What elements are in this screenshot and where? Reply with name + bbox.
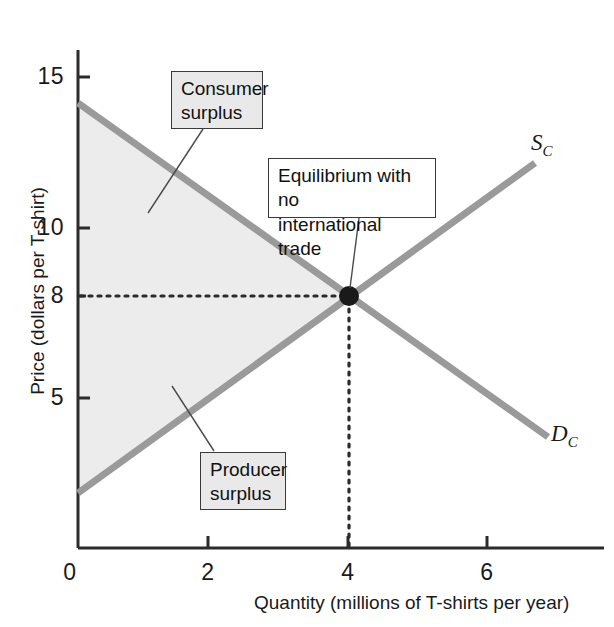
x-tick-label-2: 2 [183, 559, 233, 586]
demand-curve-label-main: D [551, 421, 568, 446]
x-tick-label-6: 6 [462, 559, 512, 586]
x-tick-label-0: 0 [45, 559, 95, 586]
demand-curve-label: DC [551, 421, 578, 451]
demand-curve-label-sub: C [568, 434, 578, 450]
supply-demand-chart: 15 10 8 5 0 2 4 6 Price (dollars per T-s… [0, 0, 614, 627]
chart-canvas [0, 0, 614, 627]
equilibrium-point-marker [339, 286, 359, 306]
x-tick-label-4: 4 [323, 559, 373, 586]
y-axis-title: Price (dollars per T-shirt) [27, 161, 49, 421]
x-axis-title: Quantity (millions of T-shirts per year) [254, 592, 569, 614]
supply-curve-label-sub: C [543, 143, 553, 159]
y-tick-label-15: 15 [4, 63, 64, 90]
supply-curve-label-main: S [531, 130, 543, 155]
producer-surplus-callout: Producer surplus [200, 452, 286, 510]
supply-curve-label: SC [531, 130, 553, 160]
consumer-surplus-callout: Consumer surplus [171, 71, 263, 129]
equilibrium-callout: Equilibrium with no international trade [268, 158, 436, 218]
